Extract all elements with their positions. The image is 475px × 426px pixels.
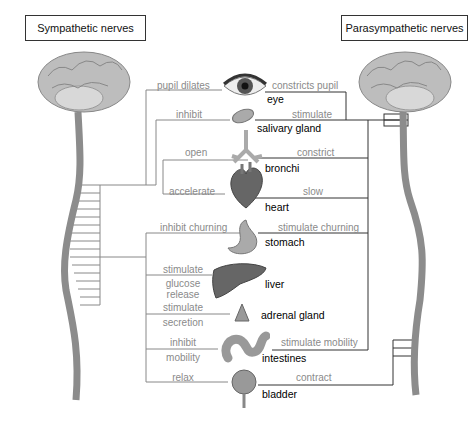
liver-organ-label: liver <box>265 278 284 290</box>
liver-label-line3: release <box>156 289 210 300</box>
salivary-parasympathetic-label: stimulate <box>292 109 332 120</box>
bladder-organ-label: bladder <box>262 388 297 400</box>
eye-icon <box>222 72 268 102</box>
liver-label-line1: stimulate <box>156 264 210 275</box>
stomach-sympathetic-label: inhibit churning <box>160 222 227 233</box>
bladder-icon <box>230 368 258 412</box>
adrenal-gland-icon <box>233 303 251 323</box>
salivary-organ-label: salivary gland <box>257 122 321 134</box>
stomach-parasympathetic-label: stimulate churning <box>278 222 359 233</box>
bronchi-sympathetic-label: open <box>185 147 207 158</box>
sympathetic-spine <box>64 112 80 400</box>
eye-sympathetic-label: pupil dilates <box>157 80 210 91</box>
adrenal-label-line1: stimulate <box>156 302 210 313</box>
salivary-sympathetic-label: inhibit <box>176 109 202 120</box>
parasympathetic-title: Parasympathetic nerves <box>341 15 468 41</box>
bronchi-organ-label: bronchi <box>265 162 299 174</box>
adrenal-organ-label: adrenal gland <box>261 309 325 321</box>
intestines-label-line2: mobility <box>156 352 210 363</box>
bladder-parasympathetic-label: contract <box>296 372 332 383</box>
salivary-gland-icon <box>230 108 256 124</box>
sympathetic-title: Sympathetic nerves <box>25 15 146 41</box>
intestines-parasympathetic-label: stimulate mobility <box>281 337 358 348</box>
heart-sympathetic-label: accelerate <box>169 186 215 197</box>
eye-parasympathetic-label: constricts pupil <box>272 80 338 91</box>
bronchi-parasympathetic-label: constrict <box>297 147 334 158</box>
heart-icon <box>226 160 266 210</box>
intestines-label-line1: inhibit <box>156 337 210 348</box>
intestines-organ-label: intestines <box>262 352 306 364</box>
right-brain-icon <box>355 48 455 120</box>
heart-organ-label: heart <box>265 201 289 213</box>
left-brain-icon <box>34 48 134 120</box>
adrenal-label-line2: secretion <box>156 317 210 328</box>
bladder-sympathetic-label: relax <box>156 372 210 383</box>
heart-parasympathetic-label: slow <box>303 186 323 197</box>
stomach-organ-label: stomach <box>265 236 305 248</box>
liver-label-line2: glucose <box>156 278 210 289</box>
eye-organ-label: eye <box>267 93 284 105</box>
stomach-icon <box>224 218 264 256</box>
liver-icon <box>210 260 268 300</box>
parasympathetic-spine <box>403 110 422 395</box>
